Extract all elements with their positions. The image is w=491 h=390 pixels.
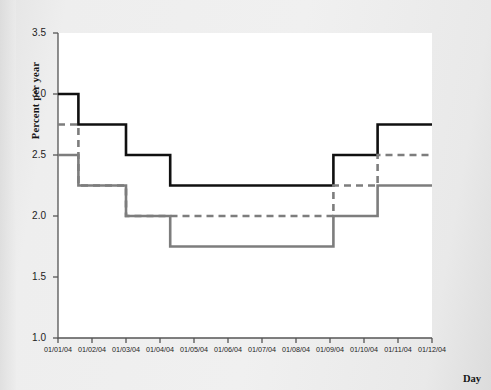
chart-canvas [0,0,491,390]
y-tick-label: 2.0 [18,210,46,221]
y-tick-label: 1.5 [18,271,46,282]
x-axis-title: Day [463,373,481,384]
x-tick-label: 01/12/04 [404,345,460,354]
y-axis-title: Percent per year [30,36,41,166]
y-tick-label: 2.5 [18,149,46,160]
chart-page: Percent per year Day 1.01.52.02.53.03.5 … [0,0,491,390]
y-tick-label: 3.5 [18,27,46,38]
y-tick-label: 3.0 [18,88,46,99]
y-tick-label: 1.0 [18,332,46,343]
chart-svg [0,0,491,390]
